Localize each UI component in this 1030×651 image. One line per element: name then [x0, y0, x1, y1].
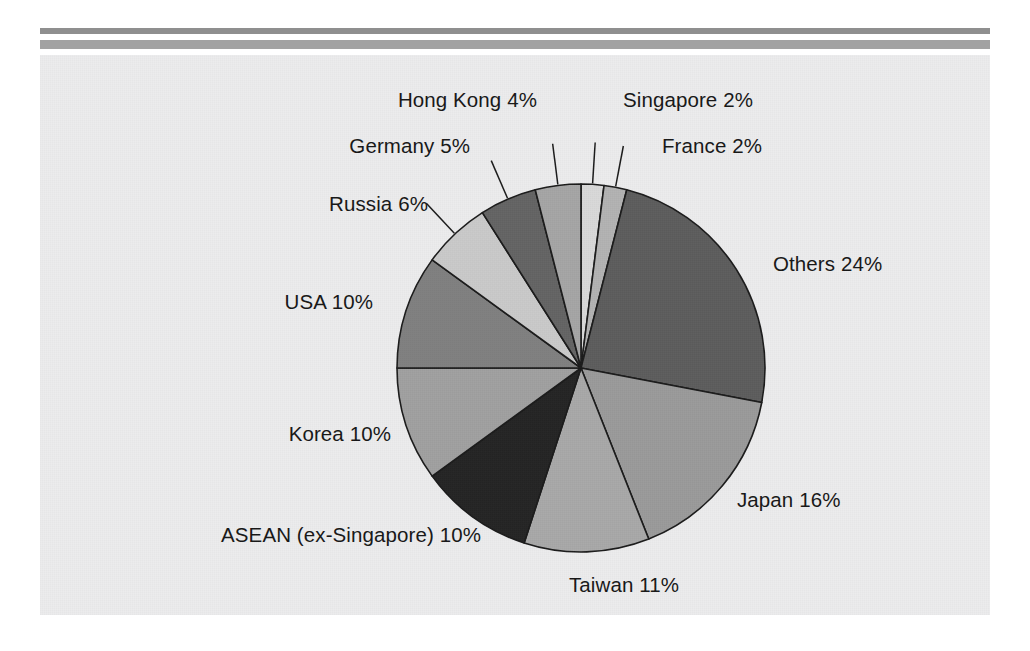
pie-slice-label: Taiwan 11% [569, 573, 679, 596]
pie-slice-label: Singapore 2% [623, 88, 753, 111]
pie-slice-label: USA 10% [285, 290, 373, 313]
chart-panel: Singapore 2%France 2%Others 24%Japan 16%… [40, 55, 990, 615]
leader-line [593, 142, 596, 183]
pie-slice-label: France 2% [662, 134, 762, 157]
leader-line [553, 144, 558, 185]
pie-slice-label: Russia 6% [329, 192, 428, 215]
pie-slice-label: Hong Kong 4% [398, 88, 537, 111]
pie-slice-label: Japan 16% [737, 488, 840, 511]
leader-line [426, 203, 454, 233]
pie-slice-label: Others 24% [773, 252, 882, 275]
chart-page: Singapore 2%France 2%Others 24%Japan 16%… [0, 0, 1030, 651]
pie-slice-label: Korea 10% [289, 422, 391, 445]
pie-slice-label: Germany 5% [349, 134, 470, 157]
pie-slices-group [397, 184, 765, 552]
top-rule-thin [40, 28, 990, 34]
leader-line [491, 161, 507, 199]
leader-line [616, 146, 624, 186]
pie-chart: Singapore 2%France 2%Others 24%Japan 16%… [40, 55, 990, 615]
top-rule-thick [40, 40, 990, 49]
pie-slice-label: ASEAN (ex-Singapore) 10% [221, 523, 481, 546]
